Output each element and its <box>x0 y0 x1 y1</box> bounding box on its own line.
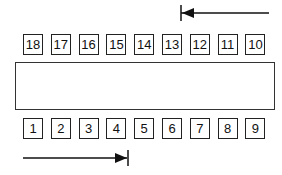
top-arrow-left-icon <box>181 5 269 21</box>
numbered-box: 7 <box>190 118 210 139</box>
numbered-box: 18 <box>23 34 43 55</box>
center-rectangle <box>15 62 275 110</box>
numbered-box: 9 <box>245 118 265 139</box>
numbered-box: 8 <box>218 118 238 139</box>
numbered-box: 16 <box>79 34 99 55</box>
numbered-box: 13 <box>162 34 182 55</box>
numbered-box: 17 <box>51 34 71 55</box>
bottom-arrow-right-icon <box>23 150 128 166</box>
numbered-box: 10 <box>245 34 265 55</box>
numbered-box: 6 <box>162 118 182 139</box>
numbered-box: 1 <box>23 118 43 139</box>
numbered-box: 3 <box>79 118 99 139</box>
numbered-box: 12 <box>190 34 210 55</box>
numbered-box: 11 <box>218 34 238 55</box>
numbered-box: 4 <box>106 118 126 139</box>
numbered-box: 2 <box>51 118 71 139</box>
numbered-box: 5 <box>134 118 154 139</box>
numbered-box: 15 <box>106 34 126 55</box>
numbered-box: 14 <box>134 34 154 55</box>
